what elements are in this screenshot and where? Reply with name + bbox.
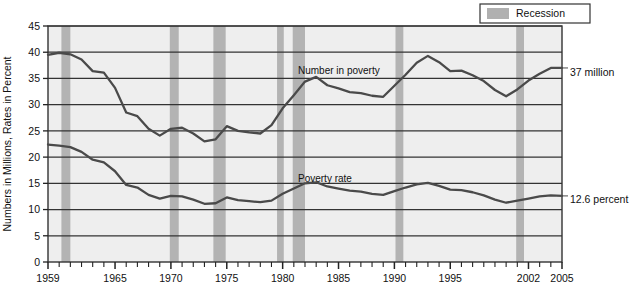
x-tick-label-1959: 1959: [36, 272, 60, 284]
x-tick-label-1995: 1995: [439, 272, 463, 284]
y-tick-label-10: 10: [28, 203, 40, 215]
y-tick-label-20: 20: [28, 151, 40, 163]
recession-band-2001: [516, 26, 524, 262]
y-axis-title: Numbers in Millions, Rates in Percent: [1, 56, 13, 231]
y-tick-label-40: 40: [28, 46, 40, 58]
recession-band-1990-91: [396, 26, 404, 262]
annotation-number-in-poverty: Number in poverty: [298, 65, 380, 76]
legend: Recession: [480, 4, 590, 23]
end-label-poverty-rate: 12.6 percent: [570, 193, 628, 205]
x-tick-label-2002: 2002: [517, 272, 541, 284]
end-label-number-in-poverty: 37 million: [570, 66, 615, 78]
y-tick-label-0: 0: [34, 256, 40, 268]
x-tick-label-1990: 1990: [383, 272, 407, 284]
x-tick-label-2005: 2005: [550, 272, 574, 284]
y-tick-label-15: 15: [28, 177, 40, 189]
chart-canvas: 051015202530354045 195919651970197519801…: [0, 0, 639, 296]
y-axis: 051015202530354045: [28, 20, 48, 268]
y-tick-label-30: 30: [28, 98, 40, 110]
x-tick-label-1975: 1975: [215, 272, 239, 284]
recession-band-1973-75: [213, 26, 225, 262]
recession-band-1981-82: [293, 26, 305, 262]
poverty-chart-figure: 051015202530354045 195919651970197519801…: [0, 0, 639, 296]
recession-band-1960-61: [61, 26, 70, 262]
recession-band-1969-70: [170, 26, 179, 262]
x-tick-label-1970: 1970: [159, 272, 183, 284]
y-tick-label-45: 45: [28, 20, 40, 32]
x-axis: 1959196519701975198019851990199520022005: [36, 262, 574, 284]
x-tick-label-1980: 1980: [271, 272, 295, 284]
y-tick-label-5: 5: [34, 230, 40, 242]
y-tick-label-35: 35: [28, 72, 40, 84]
y-tick-label-25: 25: [28, 125, 40, 137]
legend-label-recession: Recession: [516, 7, 565, 19]
annotation-poverty-rate: Poverty rate: [298, 173, 352, 184]
recession-band-1980: [277, 26, 284, 262]
x-tick-label-1985: 1985: [327, 272, 351, 284]
legend-swatch-recession: [487, 8, 509, 19]
x-tick-label-1965: 1965: [103, 272, 127, 284]
